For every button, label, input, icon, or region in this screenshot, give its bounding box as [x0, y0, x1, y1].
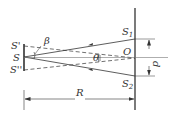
label-s: S [13, 52, 20, 63]
label-s-prime: S' [11, 40, 21, 51]
label-r: R [75, 87, 84, 98]
label-s2: S2 [122, 78, 134, 91]
arrow-ray-top-icon [88, 43, 93, 46]
diagram-canvas: S' S S'' β θ O S1 S2 d R [0, 0, 179, 123]
label-s1: S1 [122, 26, 133, 39]
label-d: d [151, 61, 162, 67]
label-o: O [123, 46, 131, 57]
label-theta: θ [93, 52, 99, 63]
label-s-doubleprime: S'' [10, 64, 22, 75]
label-beta: β [43, 35, 50, 46]
arrow-ray-bottom-icon [88, 69, 93, 71]
